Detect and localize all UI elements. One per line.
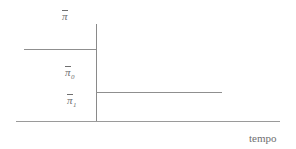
vertical-axis: [96, 24, 97, 121]
pi-symbol: π: [62, 11, 68, 22]
inflation-time-diagram: π π0 π1 tempo: [0, 0, 296, 149]
level-label-pi-zero: π0: [65, 63, 75, 81]
level-label-pi-one: π1: [67, 91, 77, 109]
subscript-zero: 0: [71, 73, 75, 81]
pi-symbol: π: [67, 95, 73, 106]
pi-symbol: π: [65, 67, 71, 78]
level-line-pi-zero: [24, 49, 96, 50]
x-axis-label-tempo: tempo: [249, 133, 277, 144]
horizontal-axis: [16, 121, 280, 122]
y-axis-label-pi-bar: π: [62, 7, 68, 23]
level-line-pi-one: [96, 92, 222, 93]
subscript-one: 1: [73, 101, 77, 109]
